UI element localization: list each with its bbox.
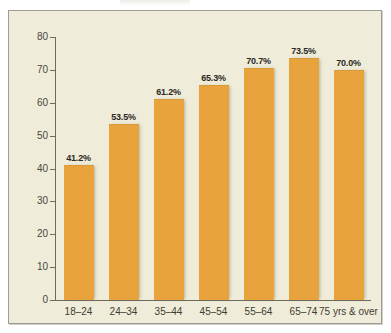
y-tick-mark xyxy=(50,169,55,170)
bar-value-label: 41.2% xyxy=(66,153,91,163)
x-tick-label: 24–34 xyxy=(110,306,138,317)
bar-slot: 70.0%75 yrs & over xyxy=(326,37,371,300)
bar-value-label: 61.2% xyxy=(156,87,181,97)
y-tick-mark xyxy=(50,70,55,71)
y-tick-label: 20 xyxy=(37,227,48,240)
y-tick-mark xyxy=(50,300,55,301)
scan-artifact-sliver xyxy=(120,0,190,6)
x-tick-label: 65–74 xyxy=(290,306,318,317)
x-tick-label: 75 yrs & over xyxy=(319,306,378,317)
bar-slot: 41.2%18–24 xyxy=(56,37,101,300)
y-tick-label: 0 xyxy=(42,293,48,306)
x-tick-label: 55–64 xyxy=(245,306,273,317)
bar-value-label: 70.7% xyxy=(246,56,271,66)
bar[interactable]: 61.2% xyxy=(154,99,184,300)
bar-series: 41.2%18–2453.5%24–3461.2%35–4465.3%45–54… xyxy=(56,37,371,301)
bar-slot: 53.5%24–34 xyxy=(101,37,146,300)
y-tick-label: 50 xyxy=(37,129,48,142)
bar-value-label: 70.0% xyxy=(336,58,361,68)
y-tick-label: 30 xyxy=(37,194,48,207)
bar-value-label: 65.3% xyxy=(201,73,226,83)
y-tick-mark xyxy=(50,37,55,38)
bar[interactable]: 53.5% xyxy=(109,124,139,300)
bar[interactable]: 73.5% xyxy=(289,58,319,300)
y-tick-label: 70 xyxy=(37,63,48,76)
bar-slot: 61.2%35–44 xyxy=(146,37,191,300)
bar-value-label: 53.5% xyxy=(111,112,136,122)
y-tick-label: 10 xyxy=(37,260,48,273)
x-tick-label: 18–24 xyxy=(65,306,93,317)
bar[interactable]: 70.0% xyxy=(334,70,364,300)
bar-slot: 73.5%65–74 xyxy=(281,37,326,300)
bar-slot: 70.7%55–64 xyxy=(236,37,281,300)
bar-slot: 65.3%45–54 xyxy=(191,37,236,300)
chart-frame: 01020304050607080 41.2%18–2453.5%24–3461… xyxy=(8,10,382,324)
y-tick-mark xyxy=(50,103,55,104)
x-tick-label: 45–54 xyxy=(200,306,228,317)
y-tick-label: 80 xyxy=(37,30,48,43)
y-tick-mark xyxy=(50,136,55,137)
x-tick-label: 35–44 xyxy=(155,306,183,317)
bar[interactable]: 70.7% xyxy=(244,68,274,300)
plot-area: 01020304050607080 41.2%18–2453.5%24–3461… xyxy=(55,37,371,301)
y-tick-label: 60 xyxy=(37,96,48,109)
chart-figure: 01020304050607080 41.2%18–2453.5%24–3461… xyxy=(0,0,391,333)
bar[interactable]: 41.2% xyxy=(64,165,94,300)
y-tick-label: 40 xyxy=(37,162,48,175)
bar-value-label: 73.5% xyxy=(291,46,316,56)
y-tick-mark xyxy=(50,234,55,235)
y-tick-mark xyxy=(50,201,55,202)
bar[interactable]: 65.3% xyxy=(199,85,229,300)
y-tick-mark xyxy=(50,267,55,268)
